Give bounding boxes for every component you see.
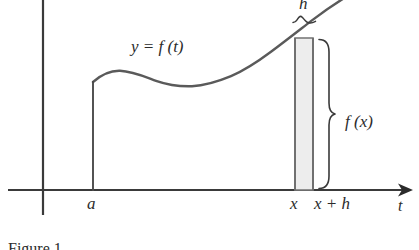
axis-label-t: t xyxy=(398,197,402,215)
figure-container: y = f (t) a x x + h t h f (x) Figure 1 xyxy=(0,0,419,250)
increment-strip-rect xyxy=(295,38,313,190)
figure-caption: Figure 1 xyxy=(8,241,62,250)
brace-label-h: h xyxy=(299,0,308,14)
brace-label-f-of-x: f (x) xyxy=(345,112,373,132)
curve-label: y = f (t) xyxy=(131,37,184,57)
f-of-x-brace xyxy=(319,40,335,189)
tick-label-x: x xyxy=(290,194,298,214)
tick-label-a: a xyxy=(87,194,96,214)
tick-label-x-plus-h: x + h xyxy=(314,194,350,214)
